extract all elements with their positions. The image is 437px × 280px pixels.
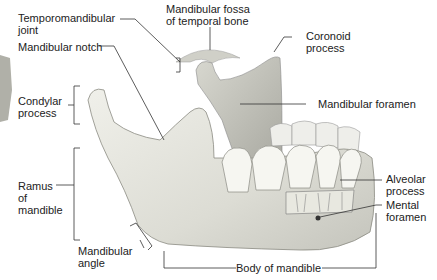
label-ramus-of-mandible: Ramus of mandible (18, 180, 63, 216)
label-temporomandibular-joint: Temporomandibular joint (18, 12, 115, 36)
upper-teeth (270, 121, 360, 152)
mandible-diagram: Temporomandibular joint Mandibular fossa… (0, 0, 437, 280)
label-alveolar-process: Alveolar process (386, 173, 426, 197)
label-mandibular-angle: Mandibular angle (78, 245, 132, 269)
label-mandibular-notch: Mandibular notch (18, 41, 102, 53)
label-mental-foramen: Mental foramen (386, 199, 426, 223)
label-mandibular-foramen: Mandibular foramen (318, 98, 416, 110)
label-coronoid-process: Coronoid process (306, 30, 351, 54)
temporal-bone (176, 50, 240, 63)
label-condylar-process: Condylar process (18, 95, 62, 119)
mental-foramen-dot (316, 216, 321, 221)
label-body-of-mandible: Body of mandible (236, 262, 321, 274)
label-mandibular-fossa: Mandibular fossa of temporal bone (166, 3, 250, 27)
skull-fragment (0, 55, 12, 122)
